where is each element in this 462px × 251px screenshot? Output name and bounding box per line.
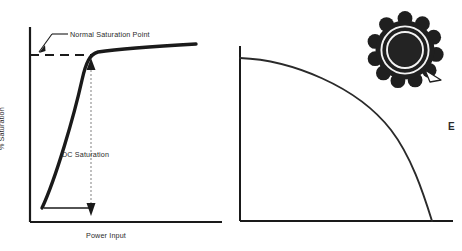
normal-saturation-point-label: Normal Saturation Point xyxy=(70,31,150,38)
left-chart-panel: Normal Saturation Point DC Saturation Po… xyxy=(0,0,231,251)
saturation-curve xyxy=(42,44,196,208)
control-knob[interactable] xyxy=(231,0,462,251)
technical-figure: Normal Saturation Point DC Saturation Po… xyxy=(0,0,462,251)
dc-saturation-label: DC Saturation xyxy=(62,151,109,158)
dc-saturation-dimension xyxy=(44,58,96,216)
left-x-axis-label: Power Input xyxy=(86,232,126,239)
right-chart-panel: E I Max. 50% 0% 100% xyxy=(231,0,462,251)
right-y-axis-label: E xyxy=(448,122,455,132)
left-y-axis-label: % Saturation xyxy=(0,107,5,150)
normal-saturation-leader xyxy=(39,34,68,53)
knob-cap xyxy=(389,34,422,67)
